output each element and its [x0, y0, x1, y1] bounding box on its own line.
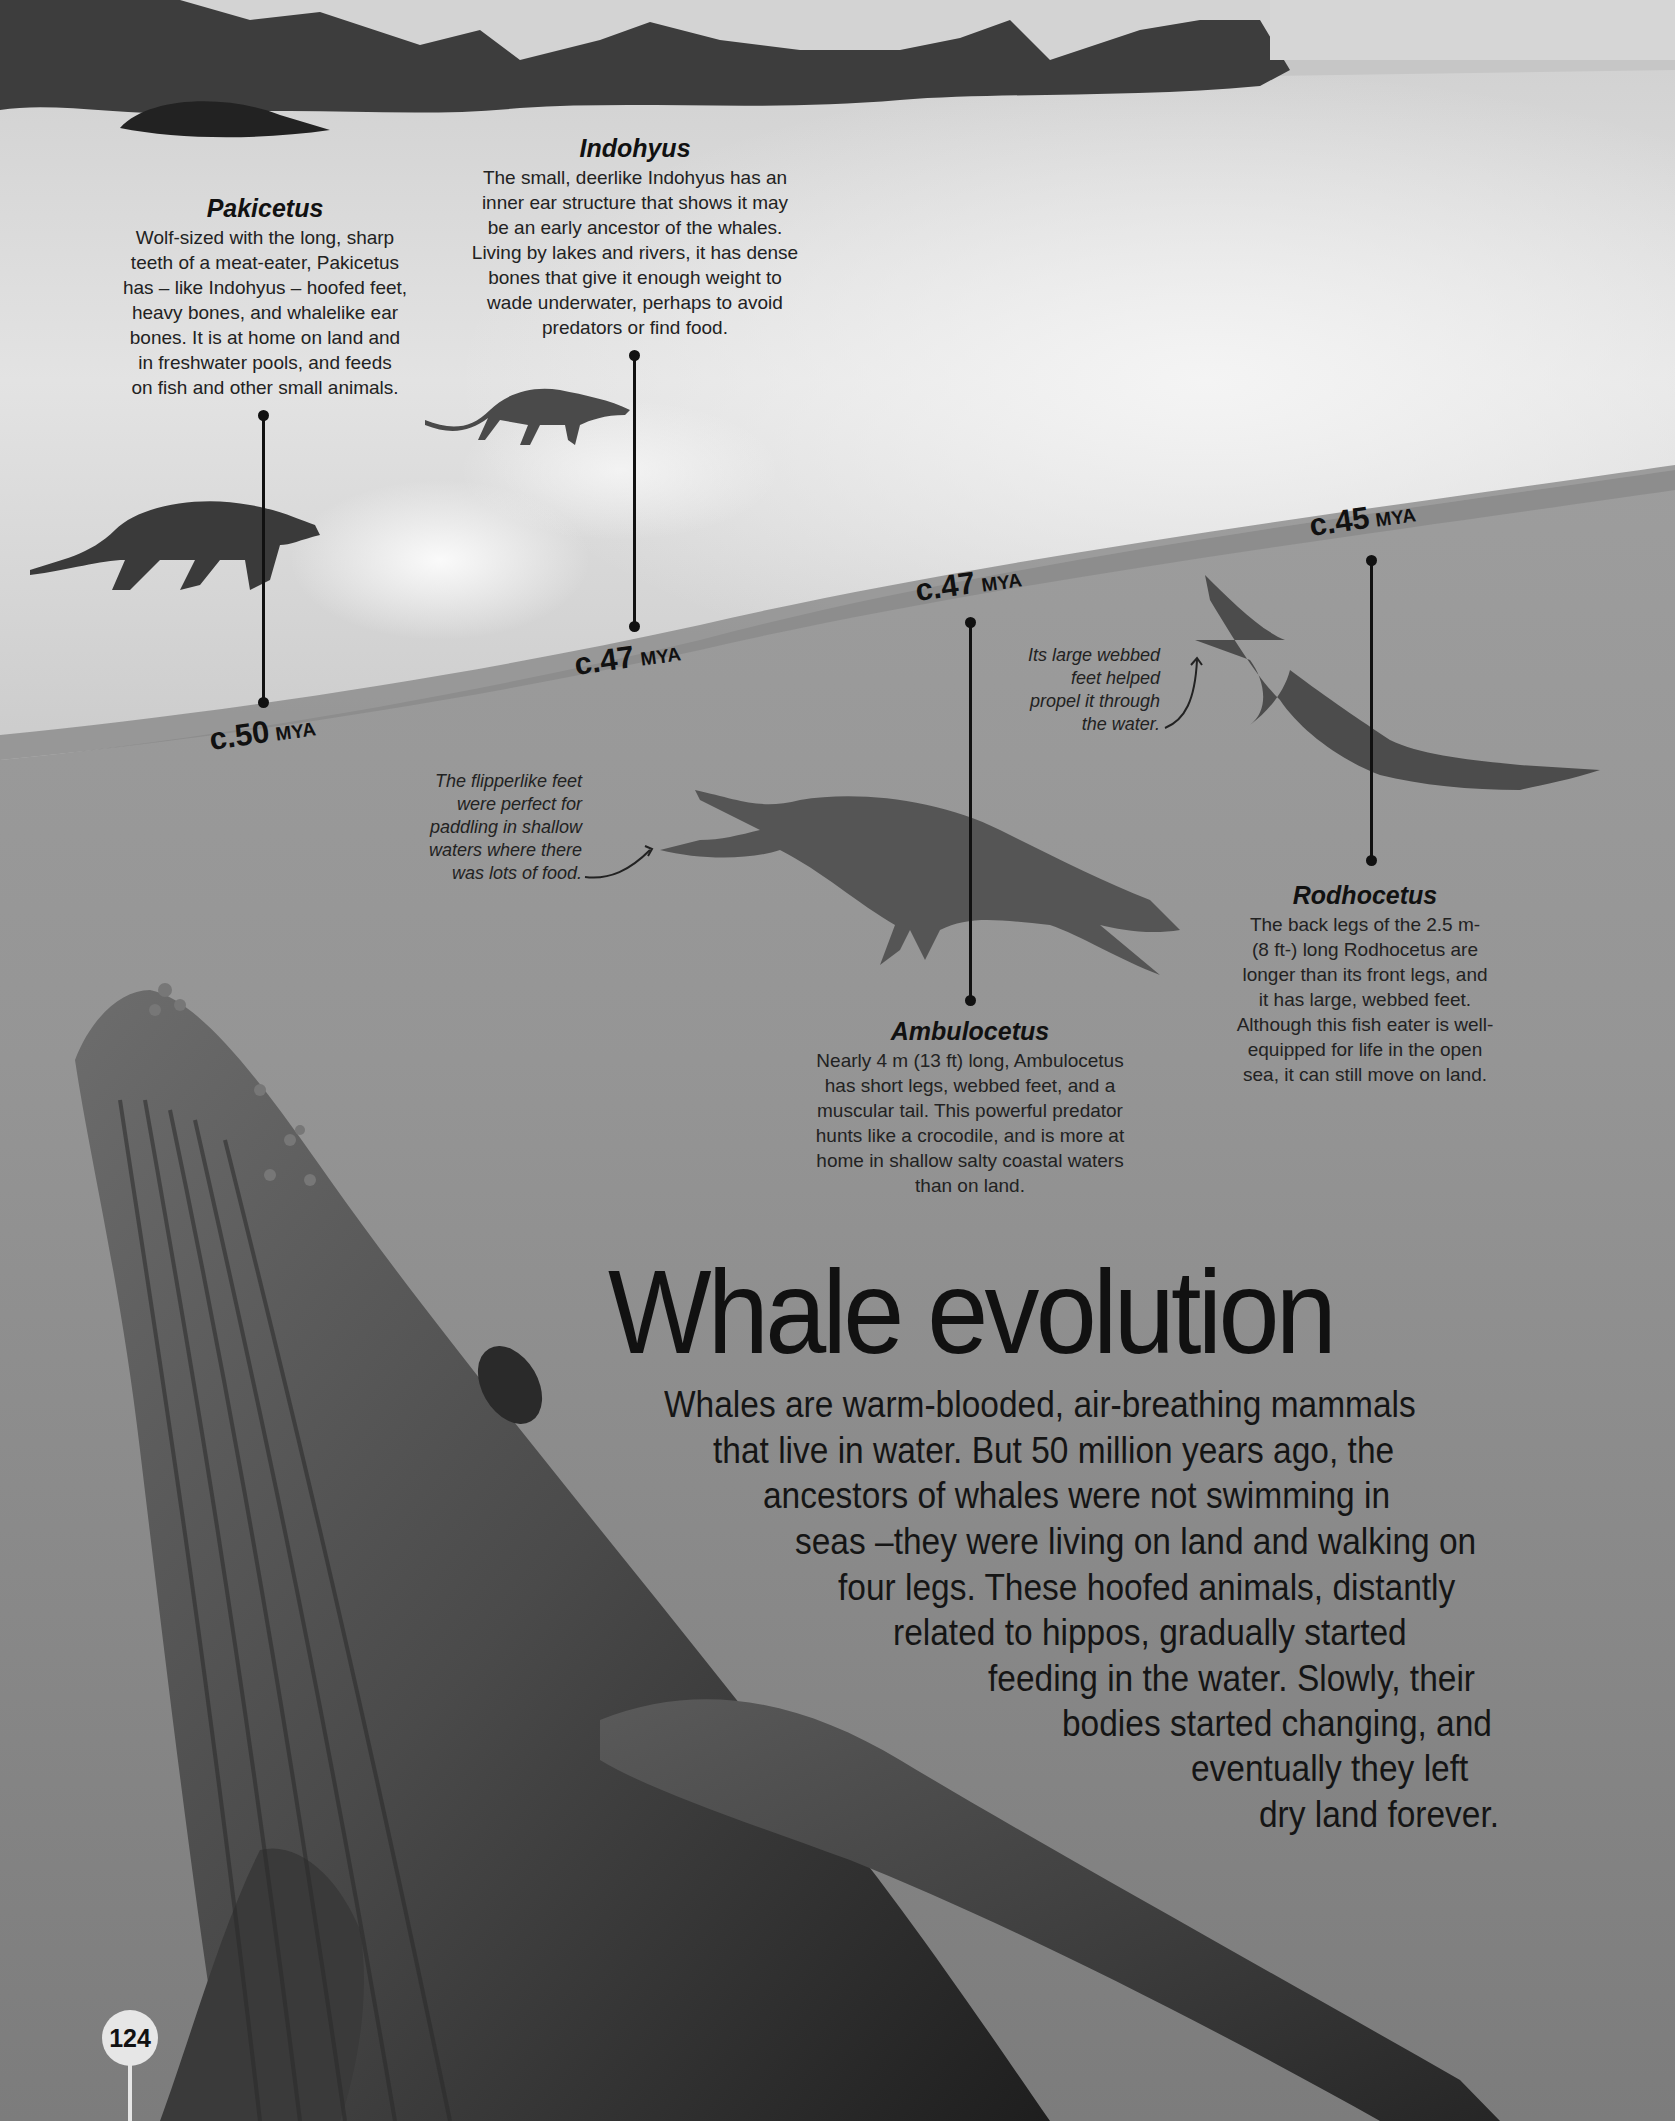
note-rodhocetus-feet: Its large webbed feet helped propel it t… [1000, 644, 1160, 736]
note-ambulocetus-feet: The flipperlike feet were perfect for pa… [400, 770, 582, 885]
species-name: Ambulocetus [790, 1016, 1150, 1046]
caption-ambulocetus: Ambulocetus Nearly 4 m (13 ft) long, Amb… [790, 1016, 1150, 1198]
caption-indohyus: Indohyus The small, deerlike Indohyus ha… [450, 133, 820, 340]
species-name: Pakicetus [100, 193, 430, 223]
page-number-stem [128, 2064, 132, 2121]
caption-pakicetus: Pakicetus Wolf-sized with the long, shar… [100, 193, 430, 400]
caption-rodhocetus: Rodhocetus The back legs of the 2.5 m- (… [1220, 880, 1510, 1087]
page-title: Whale evolution [608, 1252, 1333, 1372]
species-name: Indohyus [450, 133, 820, 163]
page-number-badge: 124 [102, 2010, 158, 2066]
species-name: Rodhocetus [1220, 880, 1510, 910]
